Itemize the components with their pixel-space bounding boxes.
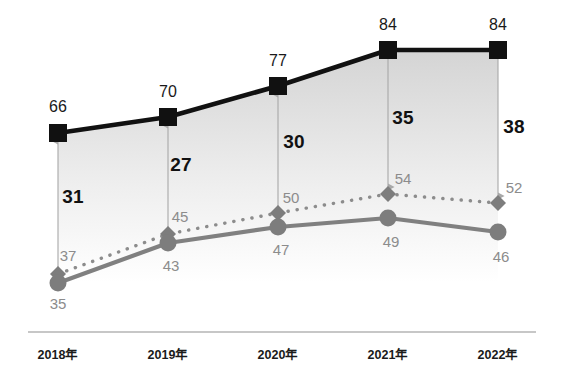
black-value-label-2020: 77	[269, 53, 287, 69]
difference-label-2020: 30	[283, 132, 305, 151]
circle-value-label-2020: 47	[273, 242, 290, 257]
difference-label-2019: 27	[170, 155, 192, 174]
x-axis-label-2020: 2020年	[258, 349, 299, 362]
circle-value-label-2018: 35	[50, 296, 67, 311]
circle-value-label-2021: 49	[383, 234, 400, 249]
black-value-label-2022: 84	[489, 17, 507, 33]
black-value-label-2019: 70	[159, 84, 177, 100]
difference-label-2021: 35	[392, 108, 414, 127]
diamond-value-label-2021: 54	[395, 171, 412, 186]
difference-label-2022: 38	[503, 117, 525, 136]
black-value-label-2018: 66	[49, 99, 67, 115]
circle-value-label-2022: 46	[493, 249, 510, 264]
x-axis-label-2019: 2019年	[148, 349, 189, 362]
diamond-value-label-2020: 50	[283, 190, 300, 205]
x-axis-label-2022: 2022年	[478, 349, 519, 362]
x-axis-label-2018: 2018年	[38, 349, 79, 362]
diamond-value-label-2022: 52	[506, 180, 523, 195]
diamond-value-label-2019: 45	[172, 209, 189, 224]
chart-container: 66 70 77 84 84 31 27 30 35 38 37 45 50 5…	[0, 0, 564, 388]
black-value-label-2021: 84	[379, 17, 397, 33]
x-axis-label-2021: 2021年	[368, 349, 409, 362]
diamond-value-label-2018: 37	[60, 248, 77, 263]
circle-value-label-2019: 43	[163, 258, 180, 273]
difference-label-2018: 31	[62, 187, 84, 206]
